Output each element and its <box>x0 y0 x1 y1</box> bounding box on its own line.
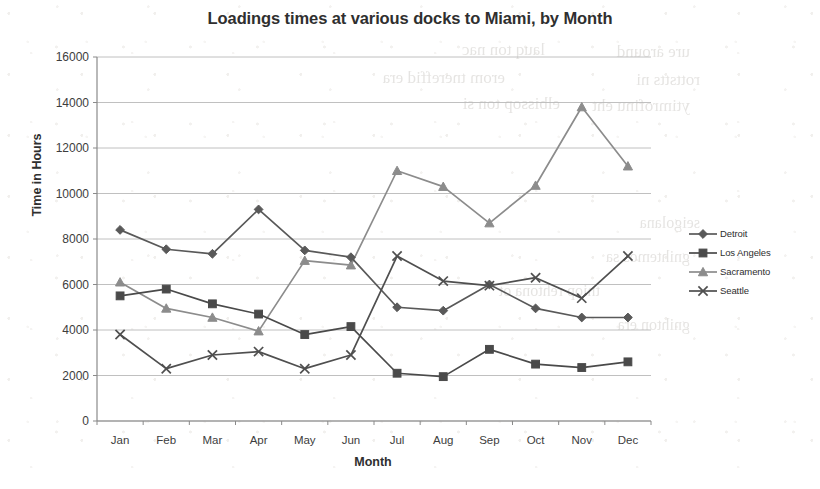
diamond-marker <box>531 304 540 313</box>
y-tick-label: 0 <box>33 414 89 428</box>
y-tick-label: 6000 <box>33 278 89 292</box>
data-point-marker <box>392 251 401 260</box>
x-tick-label: Jul <box>390 434 405 446</box>
data-point-marker <box>577 294 586 303</box>
square-marker <box>162 285 170 293</box>
diamond-marker <box>162 245 171 254</box>
y-tick-label: 2000 <box>33 369 89 383</box>
data-point-marker <box>300 364 309 373</box>
x-tick-label: Mar <box>203 434 223 446</box>
legend-label: Detroit <box>720 228 747 239</box>
data-point-marker <box>116 292 124 300</box>
y-tick-label: 14000 <box>33 96 89 110</box>
data-point-marker <box>623 251 632 260</box>
data-point-marker <box>624 358 632 366</box>
data-point-marker <box>577 102 586 110</box>
diamond-marker <box>116 226 125 235</box>
legend-swatch-triangle-icon <box>688 266 718 278</box>
data-point-marker <box>531 181 540 189</box>
data-point-marker <box>624 313 633 322</box>
legend-label: Los Angeles <box>720 247 771 258</box>
data-point-marker <box>699 229 708 238</box>
x-tick-label: Apr <box>250 434 268 446</box>
diamond-marker <box>699 229 708 238</box>
triangle-marker <box>162 304 171 312</box>
x-tick-label: Sep <box>479 434 499 446</box>
data-point-marker <box>255 310 263 318</box>
triangle-marker <box>577 102 586 110</box>
legend-swatch-cross-icon <box>688 285 718 297</box>
square-marker <box>699 249 707 257</box>
square-marker <box>439 373 447 381</box>
x-tick-label: Aug <box>433 434 453 446</box>
data-point-marker <box>439 373 447 381</box>
y-tick-label: 12000 <box>33 141 89 155</box>
y-tick-label: 16000 <box>33 50 89 64</box>
data-point-marker <box>439 306 448 315</box>
x-tick-label: Jun <box>342 434 361 446</box>
data-point-marker <box>209 300 217 308</box>
legend-label: Seattle <box>720 285 749 296</box>
data-point-marker <box>486 345 494 353</box>
triangle-marker <box>392 166 401 174</box>
x-tick-label: Nov <box>572 434 592 446</box>
data-point-marker <box>346 350 355 359</box>
data-point-marker <box>115 278 124 286</box>
line-chart: Loadings times at various docks to Miami… <box>0 0 820 489</box>
y-tick-label: 8000 <box>33 232 89 246</box>
data-point-marker <box>347 323 355 331</box>
square-marker <box>116 292 124 300</box>
square-marker <box>486 345 494 353</box>
y-tick-label: 4000 <box>33 323 89 337</box>
triangle-marker <box>531 181 540 189</box>
square-marker <box>532 360 540 368</box>
data-point-marker <box>162 285 170 293</box>
data-point-marker <box>301 331 309 339</box>
x-tick-label: Oct <box>527 434 545 446</box>
legend-item-detroit[interactable]: Detroit <box>688 224 771 243</box>
square-marker <box>347 323 355 331</box>
data-point-marker <box>532 360 540 368</box>
legend-swatch-diamond-icon <box>688 228 718 240</box>
square-marker <box>301 331 309 339</box>
data-point-marker <box>162 364 171 373</box>
data-point-marker <box>392 166 401 174</box>
data-point-marker <box>162 245 171 254</box>
data-point-marker <box>578 364 586 372</box>
series-line-detroit <box>120 209 628 317</box>
legend-item-seattle[interactable]: Seattle <box>688 281 771 300</box>
data-point-marker <box>115 330 124 339</box>
legend-item-sacramento[interactable]: Sacramento <box>688 262 771 281</box>
data-point-marker <box>577 313 586 322</box>
data-point-marker <box>162 304 171 312</box>
square-marker <box>209 300 217 308</box>
diamond-marker <box>577 313 586 322</box>
square-marker <box>255 310 263 318</box>
diamond-marker <box>624 313 633 322</box>
legend-swatch-square-icon <box>688 247 718 259</box>
triangle-marker <box>115 278 124 286</box>
square-marker <box>624 358 632 366</box>
data-point-marker <box>531 304 540 313</box>
square-marker <box>578 364 586 372</box>
y-axis-title: Time in Hours <box>30 105 44 245</box>
x-tick-label: May <box>294 434 316 446</box>
diamond-marker <box>439 306 448 315</box>
data-point-marker <box>116 226 125 235</box>
x-tick-label: Jan <box>111 434 130 446</box>
legend-label: Sacramento <box>720 266 770 277</box>
x-tick-label: Dec <box>618 434 638 446</box>
series-line-los-angeles <box>120 289 628 377</box>
x-tick-label: Feb <box>156 434 176 446</box>
series-line-sacramento <box>120 107 628 331</box>
chart-legend: DetroitLos AngelesSacramentoSeattle <box>688 224 771 300</box>
x-axis-title: Month <box>95 455 651 469</box>
y-tick-label: 10000 <box>33 187 89 201</box>
chart-title: Loadings times at various docks to Miami… <box>0 9 820 28</box>
data-point-marker <box>699 249 707 257</box>
legend-item-los-angeles[interactable]: Los Angeles <box>688 243 771 262</box>
data-point-marker <box>393 369 401 377</box>
square-marker <box>393 369 401 377</box>
